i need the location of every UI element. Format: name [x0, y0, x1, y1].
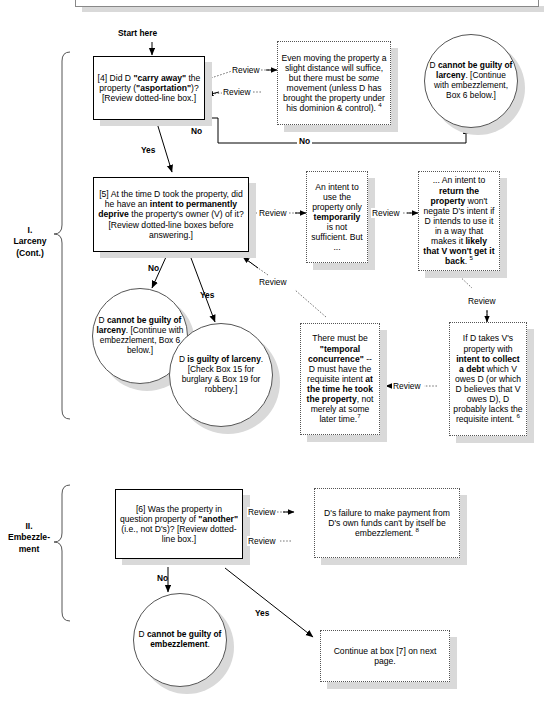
- box-5-intent-to-deprive[interactable]: [5] At the time D took the property, did…: [93, 177, 249, 252]
- edge-label-temporal-review-box5: Review: [258, 277, 287, 287]
- edge-label-box4-yes: Yes: [141, 145, 155, 155]
- edge-label-box4-no-stub: No: [190, 126, 203, 136]
- note-temporary-use: An intent to use the property only tempo…: [306, 171, 368, 263]
- note-own-funds-payment: D's failure to make payment from D's own…: [314, 488, 460, 558]
- note-continue-text: Continue at box [7] on next page.: [321, 646, 449, 666]
- edge-label-box6-no: No: [157, 573, 168, 583]
- terminator-no-larceny-top: D cannot be guilty of larceny. [Continue…: [424, 34, 518, 128]
- edge-label-box5-yes: Yes: [200, 290, 214, 300]
- terminator-no-embezzlement: D cannot be guilty of embezzlement.: [133, 593, 227, 687]
- note-return-text: ... An intent to return the property won…: [419, 175, 499, 266]
- edge-label-box4-review-out: Review: [231, 65, 260, 75]
- terminator-no-larceny-bottom-text: D cannot be guilty of larceny. [Continue…: [93, 316, 187, 356]
- note-temporary-text: An intent to use the property only tempo…: [307, 182, 367, 253]
- note-collect-debt: If D takes V's property with intent to c…: [449, 322, 527, 436]
- terminator-guilty-larceny-text: D is guilty of larceny. [Check Box 15 fo…: [170, 355, 272, 395]
- edge-label-box6-yes: Yes: [255, 608, 269, 618]
- start-here-label: Start here: [118, 28, 157, 38]
- terminator-no-embezzlement-text: D cannot be guilty of embezzlement.: [134, 630, 226, 650]
- note-return-property: ... An intent to return the property won…: [418, 171, 500, 271]
- box-6-text: [6] Was the property in question propert…: [116, 504, 242, 545]
- box-6-property-of-another[interactable]: [6] Was the property in question propert…: [115, 489, 243, 559]
- edge-label-temp-review-return: Review: [371, 208, 400, 218]
- box-4-text: [4] Did D "carry away" the property ("as…: [94, 73, 204, 103]
- note-debt-text: If D takes V's property with intent to c…: [450, 333, 526, 424]
- edge-label-return-review-debt: Review: [467, 296, 496, 306]
- note-continue-next-page: Continue at box [7] on next page.: [320, 630, 450, 682]
- edge-label-box6-review-out: Review: [247, 507, 276, 517]
- note-temporal-concurrence: There must be "temporal concurrence" -- …: [300, 323, 380, 435]
- edge-label-debt-review-temporal: Review: [392, 381, 421, 391]
- note-payment-text: D's failure to make payment from D's own…: [315, 508, 459, 538]
- edge-label-box5-review-temp: Review: [258, 208, 287, 218]
- previous-section-box-remnant: [75, 0, 539, 7]
- edge-label-box4-no-long: No: [297, 136, 312, 146]
- note-temporal-text: There must be "temporal concurrence" -- …: [301, 333, 379, 424]
- terminator-guilty-larceny: D is guilty of larceny. [Check Box 15 fo…: [169, 323, 273, 427]
- section-label-embezzlement: II. Embezzle- ment: [0, 521, 58, 555]
- edge-label-box5-no: No: [148, 263, 159, 273]
- flowchart-page: I. Larceny (Cont.) II. Embezzle- ment St…: [0, 0, 552, 704]
- edge-label-box4-review-in: Review: [222, 87, 251, 97]
- section-label-larceny: I. Larceny (Cont.): [4, 225, 56, 259]
- edge-label-box6-review-in: Review: [247, 536, 276, 546]
- terminator-no-larceny-top-text: D cannot be guilty of larceny. [Continue…: [425, 61, 517, 101]
- box-5-text: [5] At the time D took the property, did…: [94, 189, 248, 240]
- box-4-carry-away[interactable]: [4] Did D "carry away" the property ("as…: [93, 56, 205, 120]
- note-asportation-text: Even moving the property a slight distan…: [278, 53, 390, 114]
- note-asportation-movement: Even moving the property a slight distan…: [277, 41, 391, 125]
- brace-larceny: [54, 52, 70, 419]
